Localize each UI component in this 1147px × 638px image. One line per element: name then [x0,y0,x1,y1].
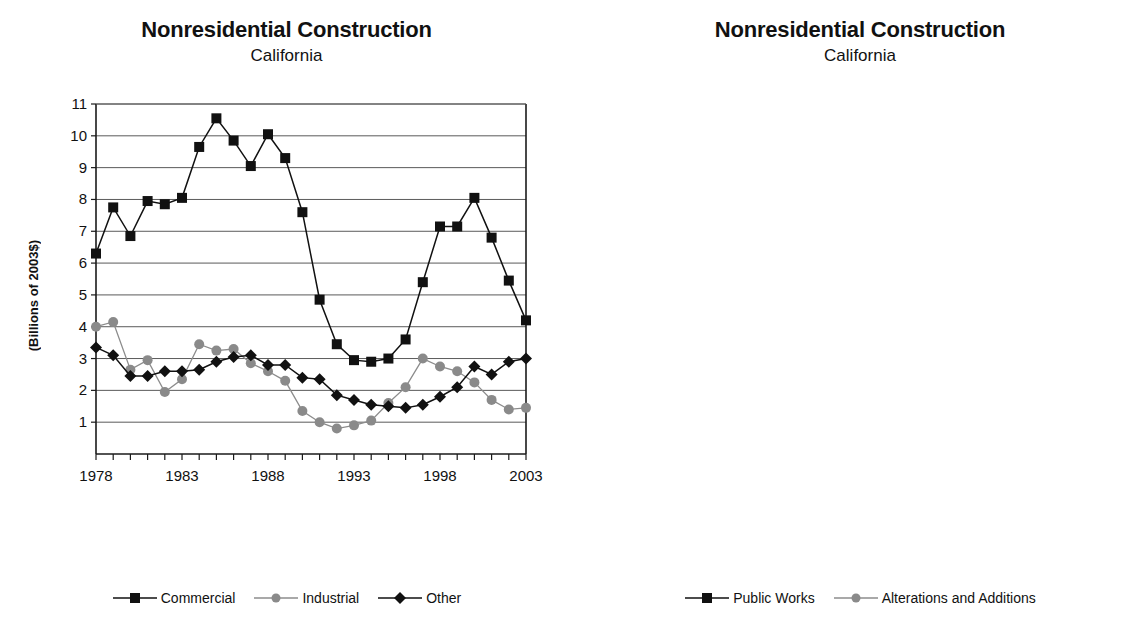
data-point-circle [349,420,359,430]
y-tick-label: 4 [79,318,87,335]
data-point-diamond [503,356,515,368]
page-title-secondary: Nonresidential Construction [573,18,1147,43]
legend-item[interactable]: Commercial [112,589,236,606]
chart-legend-right: Public WorksAlterations and Additions [573,588,1147,606]
data-point-circle [297,406,307,416]
y-tick-label: 1 [79,413,87,430]
legend-glyph [112,590,158,606]
x-tick-label: 1998 [423,467,456,484]
plot-area-left: 1234567891011197819831988199319982003 [62,100,532,500]
data-point-square [469,193,479,203]
data-point-circle [418,354,428,364]
y-tick-label: 9 [79,159,87,176]
data-point-circle [332,424,342,434]
data-point-square [177,193,187,203]
data-point-square [487,233,497,243]
data-point-circle [315,417,325,427]
data-point-diamond [193,364,205,376]
data-point-circle [452,366,462,376]
x-tick-label: 1993 [337,467,370,484]
data-point-diamond [434,391,446,403]
data-point-circle [469,377,479,387]
y-tick-label: 2 [79,381,87,398]
legend-item[interactable]: Industrial [253,589,359,606]
chart-subtitle: California [0,45,573,67]
data-point-diamond [159,365,171,377]
data-point-square [125,231,135,241]
data-point-diamond [400,402,412,414]
data-point-diamond [520,353,532,365]
x-tick-label: 1988 [251,467,284,484]
chart-subtitle-secondary: California [573,45,1147,67]
x-tick-label: 1978 [79,467,112,484]
data-point-square [297,207,307,217]
data-point-diamond [90,341,102,353]
data-point-square [91,249,101,259]
data-point-square [246,161,256,171]
data-point-circle [211,346,221,356]
legend-item[interactable]: Other [377,589,461,606]
data-point-square [229,136,239,146]
y-tick-label: 11 [71,95,87,112]
data-point-square [504,276,514,286]
data-point-diamond [279,359,291,371]
legend-glyph [377,590,423,606]
chart-panel-left: Nonresidential Construction California (… [0,0,573,638]
chart-panel-right: Nonresidential Construction California (… [573,0,1147,638]
data-point-circle [143,355,153,365]
data-point-square [401,334,411,344]
legend-glyph [253,590,299,606]
data-point-square [315,295,325,305]
data-point-square [108,202,118,212]
legend-item-label: Commercial [161,590,236,606]
data-point-circle [160,387,170,397]
legend-item-label: Industrial [302,590,359,606]
data-point-square [366,357,376,367]
data-point-square [160,199,170,209]
data-point-square [418,277,428,287]
data-point-circle [194,339,204,349]
legend-item-label: Other [426,590,461,606]
data-point-square [194,142,204,152]
data-point-circle [435,362,445,372]
data-point-diamond [210,356,222,368]
data-point-circle [521,403,531,413]
legend-item[interactable]: Public Works [684,589,814,606]
legend-item[interactable]: Alterations and Additions [833,589,1036,606]
legend-item-label: Alterations and Additions [882,590,1036,606]
chart-legend-left: CommercialIndustrialOther [0,588,573,606]
y-tick-label: 10 [70,127,87,144]
data-point-square [435,222,445,232]
data-point-circle [487,395,497,405]
chart-title-block-left: Nonresidential Construction California [0,18,573,67]
data-point-circle [91,322,101,332]
data-point-diamond [176,365,188,377]
data-point-square [349,355,359,365]
legend-glyph [833,590,879,606]
y-axis-label: (Billions of 2003$) [26,240,41,351]
data-point-square [383,354,393,364]
data-point-circle [108,317,118,327]
series-line [96,118,526,361]
series-line [96,322,526,429]
legend-item-label: Public Works [733,590,814,606]
data-point-square [143,196,153,206]
data-point-diamond [296,372,308,384]
data-point-square [280,153,290,163]
data-point-circle [280,376,290,386]
y-tick-label: 6 [79,254,87,271]
data-point-diamond [417,399,429,411]
data-point-diamond [486,368,498,380]
legend-glyph [684,590,730,606]
x-tick-label: 2003 [509,467,542,484]
chart-svg-left: 1234567891011197819831988199319982003 [62,100,532,500]
data-point-square [263,129,273,139]
chart-title-block-right: Nonresidential Construction California [573,18,1147,67]
data-point-diamond [365,399,377,411]
page-title: Nonresidential Construction [0,18,573,43]
data-point-circle [366,416,376,426]
y-tick-label: 3 [79,350,87,367]
data-point-square [211,113,221,123]
y-tick-label: 8 [79,190,87,207]
y-tick-label: 5 [79,286,87,303]
